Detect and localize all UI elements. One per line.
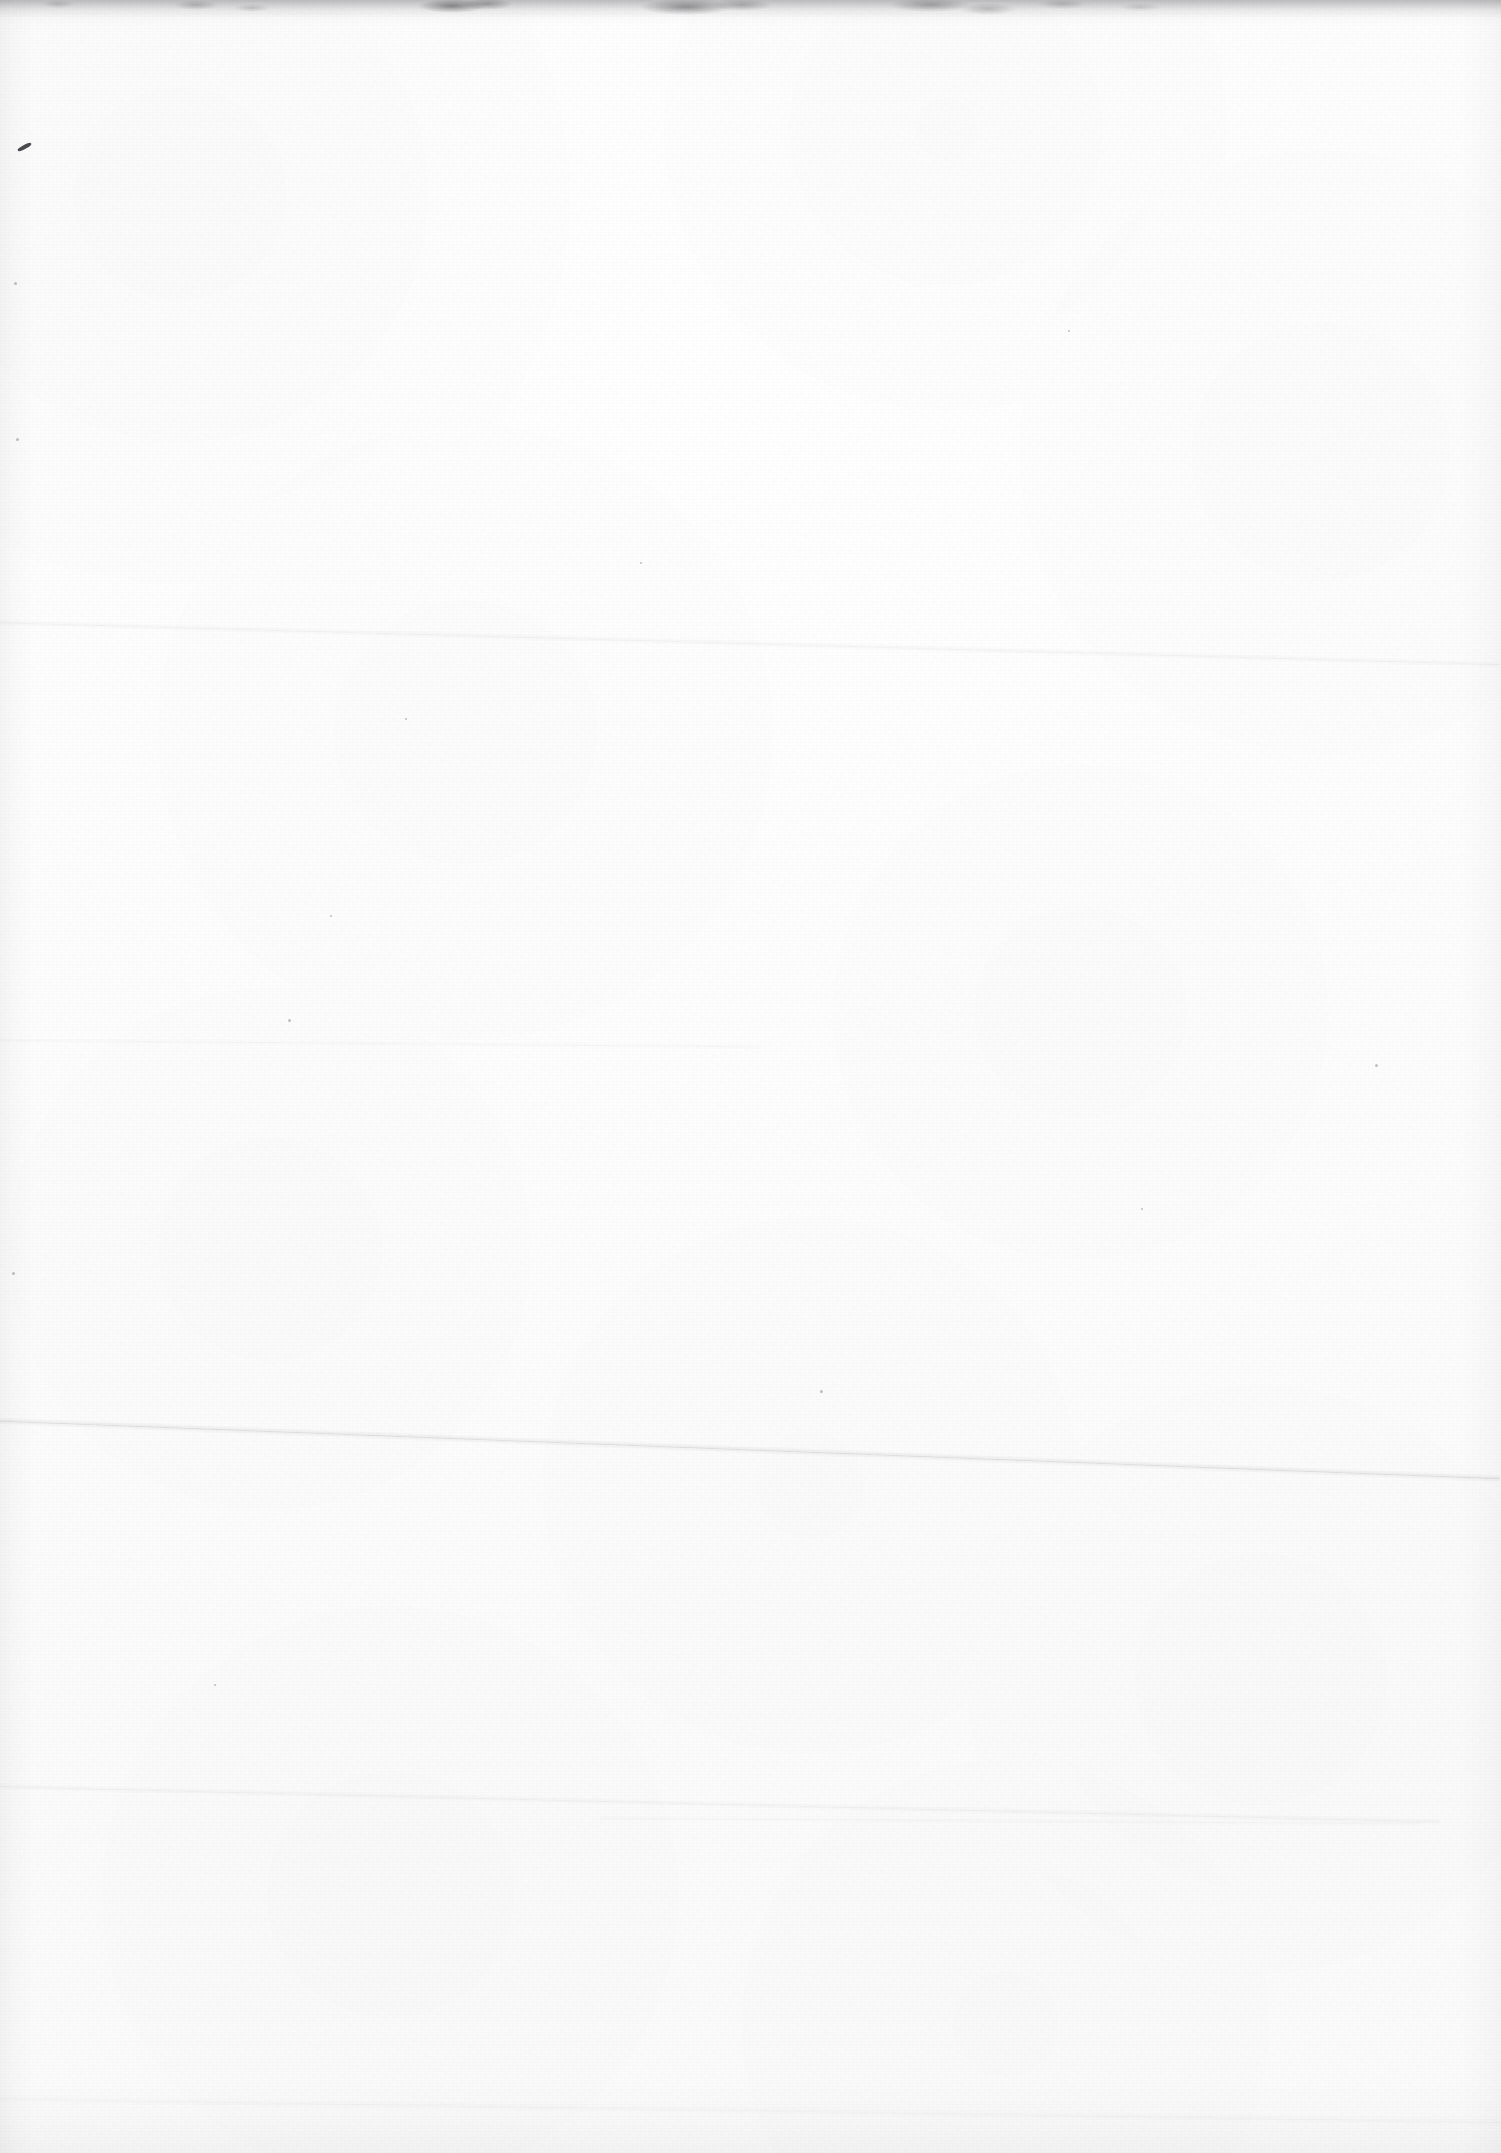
speck-i [820, 1390, 823, 1393]
bottom-edge-shading-band [0, 2083, 1501, 2153]
speck-h [1141, 1208, 1143, 1210]
paper-mottle-texture [0, 0, 1501, 2153]
speck-b [16, 438, 19, 441]
speck-l [214, 1684, 216, 1686]
speck-d [288, 1019, 291, 1022]
top-edge-dirt-specks [0, 0, 1501, 30]
left-edge-shading-band [0, 0, 34, 2153]
right-edge-shading-band [1461, 0, 1501, 2153]
speck-j [330, 915, 332, 917]
speck-k [1068, 330, 1070, 332]
speck-g [640, 562, 642, 564]
speck-e [1375, 1064, 1378, 1067]
scanned-page [0, 0, 1501, 2153]
speck-c [12, 1272, 15, 1275]
speck-f [405, 718, 407, 720]
speck-a [14, 282, 17, 285]
